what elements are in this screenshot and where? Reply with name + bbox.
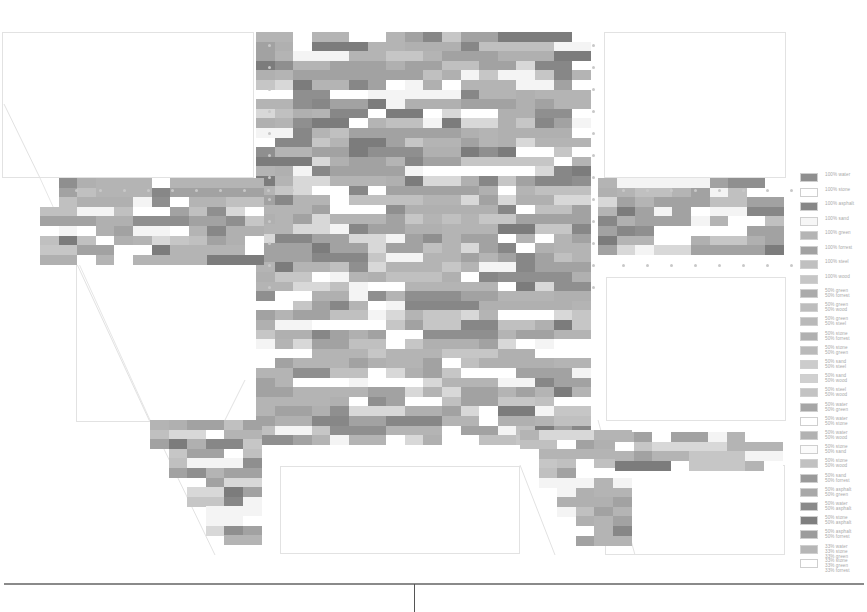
grid-cell [516, 253, 535, 263]
grid-cell [691, 245, 710, 255]
grid-cell [243, 420, 262, 430]
grid-cell [224, 458, 243, 468]
grid-cell [554, 176, 573, 186]
grid-cell [442, 195, 461, 205]
grid-cell [312, 234, 331, 244]
grid-cell [535, 118, 554, 128]
grid-cell [226, 245, 245, 255]
grid-cell [498, 339, 517, 349]
grid-cell [442, 70, 461, 80]
grid-cell [554, 118, 573, 128]
grid-marker-dot [268, 176, 271, 179]
grid-cell [206, 478, 225, 488]
grid-cell [535, 61, 554, 71]
grid-cell [617, 226, 636, 236]
grid-cell [635, 226, 654, 236]
grid-cell [114, 207, 133, 217]
grid-cell [349, 176, 368, 186]
grid-cell [59, 236, 78, 246]
grid-cell [745, 442, 764, 452]
grid-cell [423, 435, 442, 445]
grid-cell [170, 216, 189, 226]
grid-cell [349, 157, 368, 167]
grid-cell [349, 205, 368, 215]
grid-cell [275, 406, 294, 416]
grid-cell [572, 397, 591, 407]
grid-cell [368, 387, 387, 397]
grid-cell [535, 378, 554, 388]
grid-cell [535, 234, 554, 244]
grid-cell [498, 358, 517, 368]
grid-cell [243, 516, 262, 526]
grid-cell [535, 138, 554, 148]
grid-cell [224, 487, 243, 497]
grid-cell [498, 70, 517, 80]
grid-cell [405, 80, 424, 90]
grid-cell [312, 157, 331, 167]
grid-cell [386, 368, 405, 378]
grid-cell [442, 186, 461, 196]
grid-cell [256, 128, 275, 138]
grid-cell [554, 90, 573, 100]
grid-cell [572, 243, 591, 253]
grid-cell [349, 70, 368, 80]
grid-cell [747, 236, 766, 246]
grid-cell [535, 349, 554, 359]
grid-cell [330, 32, 349, 42]
grid-cell [461, 330, 480, 340]
grid-cell [423, 166, 442, 176]
grid-cell [654, 178, 673, 188]
grid-cell [59, 197, 78, 207]
grid-cell [59, 178, 78, 188]
grid-cell [461, 90, 480, 100]
grid-cell [615, 461, 634, 471]
grid-cell [330, 166, 349, 176]
grid-cell [535, 90, 554, 100]
grid-cell [206, 468, 225, 478]
grid-cell [554, 272, 573, 282]
grid-cell [572, 387, 591, 397]
legend-item: 50% stone 50% green [800, 345, 848, 355]
grid-cell [708, 442, 727, 452]
grid-cell [554, 224, 573, 234]
legend-item: 50% green 50% steel [800, 316, 848, 326]
grid-cell [572, 42, 591, 52]
grid-cell [672, 188, 691, 198]
grid-cell [572, 128, 591, 138]
grid-cell [312, 358, 331, 368]
grid-cell [572, 234, 591, 244]
legend-item: 100% steel [800, 259, 849, 269]
grid-cell [312, 138, 331, 148]
grid-cell [442, 234, 461, 244]
grid-cell [461, 243, 480, 253]
grid-cell [226, 226, 245, 236]
grid-cell [516, 243, 535, 253]
grid-cell [386, 310, 405, 320]
grid-cell [386, 291, 405, 301]
grid-cell [442, 176, 461, 186]
grid-cell [572, 176, 591, 186]
grid-cell [312, 416, 331, 426]
grid-cell [516, 42, 535, 52]
grid-cell [293, 368, 312, 378]
grid-cell [691, 226, 710, 236]
grid-cell [386, 118, 405, 128]
grid-cell [617, 178, 636, 188]
grid-cell [256, 90, 275, 100]
grid-cell [461, 176, 480, 186]
grid-cell [535, 339, 554, 349]
grid-cell [572, 157, 591, 167]
grid-cell [330, 435, 349, 445]
grid-cell [312, 51, 331, 61]
grid-cell [330, 310, 349, 320]
grid-cell [96, 207, 115, 217]
grid-cell [312, 378, 331, 388]
grid-marker-dot [268, 44, 271, 47]
grid-cell [226, 255, 245, 265]
grid-marker-dot [267, 189, 270, 192]
grid-cell [442, 310, 461, 320]
grid-cell [745, 432, 764, 442]
grid-marker-dot [592, 88, 595, 91]
grid-cell [461, 301, 480, 311]
grid-cell [535, 205, 554, 215]
